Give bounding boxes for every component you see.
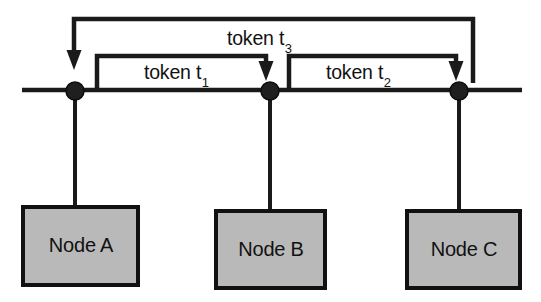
node-a-box [23, 207, 138, 285]
token-t2-path [289, 56, 456, 90]
token-t2-arrow [289, 56, 464, 90]
token-t1-arrowhead-icon [259, 61, 274, 81]
token-t1-arrow [97, 56, 274, 90]
diagram-canvas [0, 0, 541, 302]
token-t2-arrowhead-icon [449, 61, 464, 81]
bus-tap-node-c [450, 82, 468, 100]
token-bus-diagram: token t3 token t1 token t2 Node A Node B… [0, 0, 541, 302]
token-t1-path [97, 56, 266, 90]
bus-tap-node-a [66, 82, 84, 100]
token-t3-arrow [67, 19, 474, 83]
token-t3-arrowhead-icon [67, 50, 82, 70]
node-b-box [216, 211, 325, 288]
node-c-box [407, 211, 520, 288]
bus-tap-node-b [261, 82, 279, 100]
token-t3-path [74, 19, 473, 83]
